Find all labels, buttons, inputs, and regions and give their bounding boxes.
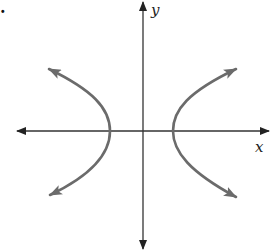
- hyperbola-diagram: [0, 0, 280, 250]
- x-axis-label: x: [255, 140, 263, 155]
- hyperbola-right-branch: [173, 69, 236, 197]
- y-axis-label: y: [151, 3, 159, 18]
- hyperbola-left-branch: [49, 69, 110, 195]
